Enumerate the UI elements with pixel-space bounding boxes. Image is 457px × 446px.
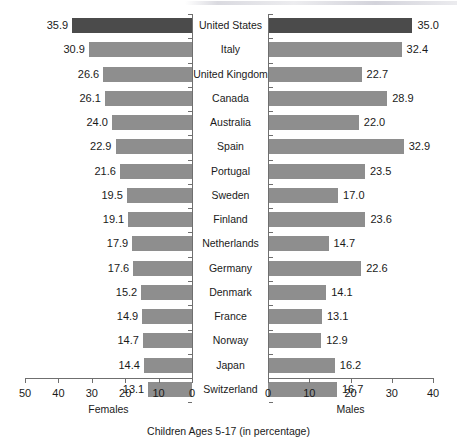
bar-males xyxy=(268,358,335,373)
chart-row: 24.0Australia22.0 xyxy=(0,111,457,135)
males-tick-label: 0 xyxy=(253,386,283,400)
females-tick-label: 20 xyxy=(110,386,140,400)
bar-females xyxy=(103,67,192,82)
value-label-females: 22.9 xyxy=(90,137,111,156)
category-tick xyxy=(269,63,273,64)
category-tick xyxy=(188,14,192,15)
category-tick xyxy=(188,232,192,233)
value-label-males: 23.5 xyxy=(370,162,391,181)
bar-females xyxy=(72,18,192,33)
chart-row: 35.9United States35.0 xyxy=(0,14,457,38)
chart-row: 21.6Portugal23.5 xyxy=(0,160,457,184)
category-tick xyxy=(188,305,192,306)
females-axis-tick xyxy=(92,378,93,383)
category-label: United States xyxy=(193,16,268,35)
females-axis-line xyxy=(25,378,193,379)
chart-row: 19.5Sweden17.0 xyxy=(0,184,457,208)
value-label-males: 32.9 xyxy=(409,137,430,156)
category-tick xyxy=(188,111,192,112)
value-label-males: 35.0 xyxy=(417,16,438,35)
bar-females xyxy=(132,236,192,251)
chart-row: 30.9Italy32.4 xyxy=(0,38,457,62)
males-tick-label: 20 xyxy=(336,386,366,400)
category-tick xyxy=(269,135,273,136)
category-tick xyxy=(269,208,273,209)
value-label-males: 28.9 xyxy=(392,89,413,108)
bar-females xyxy=(127,188,192,203)
category-label: Norway xyxy=(193,331,268,350)
males-axis-tick xyxy=(268,378,269,383)
category-tick xyxy=(188,135,192,136)
chart-row: 17.6Germany22.6 xyxy=(0,257,457,281)
bar-males xyxy=(268,139,404,154)
category-tick xyxy=(269,305,273,306)
bar-males xyxy=(268,261,361,276)
males-tick-label: 30 xyxy=(377,386,407,400)
category-tick xyxy=(188,87,192,88)
category-tick xyxy=(269,354,273,355)
chart-caption: Children Ages 5-17 (in percentage) xyxy=(0,424,457,438)
chart-row: 14.4Japan16.2 xyxy=(0,354,457,378)
females-axis-tick xyxy=(192,378,193,383)
value-label-males: 22.6 xyxy=(366,259,387,278)
value-label-males: 17.0 xyxy=(343,186,364,205)
category-tick xyxy=(188,184,192,185)
chart-row: 15.2Denmark14.1 xyxy=(0,281,457,305)
value-label-males: 14.1 xyxy=(331,283,352,302)
category-tick xyxy=(188,354,192,355)
bar-males xyxy=(268,236,329,251)
bar-females xyxy=(141,285,192,300)
bar-males xyxy=(268,309,322,324)
category-label: Netherlands xyxy=(193,234,268,253)
males-tick-label: 10 xyxy=(294,386,324,400)
bar-females xyxy=(128,212,192,227)
category-tick xyxy=(269,14,273,15)
value-label-females: 26.6 xyxy=(78,65,99,84)
bar-females xyxy=(105,91,192,106)
value-label-females: 26.1 xyxy=(79,89,100,108)
bar-females xyxy=(144,358,192,373)
category-tick xyxy=(269,402,273,403)
category-tick xyxy=(188,160,192,161)
category-label: Portugal xyxy=(193,162,268,181)
scan-artifact xyxy=(185,1,457,5)
category-label: Spain xyxy=(193,137,268,156)
value-label-females: 14.9 xyxy=(117,307,138,326)
value-label-females: 24.0 xyxy=(86,113,107,132)
category-tick xyxy=(188,208,192,209)
chart-row: 26.6United Kingdom22.7 xyxy=(0,63,457,87)
chart-rows: 35.9United States35.030.9Italy32.426.6Un… xyxy=(0,14,457,402)
category-label: Canada xyxy=(193,89,268,108)
bar-males xyxy=(268,18,412,33)
category-label: Japan xyxy=(193,356,268,375)
chart-row: 22.9Spain32.9 xyxy=(0,135,457,159)
bar-females xyxy=(116,139,193,154)
bar-females xyxy=(142,309,192,324)
bar-males xyxy=(268,285,326,300)
chart-row: 14.7Norway12.9 xyxy=(0,329,457,353)
value-label-males: 14.7 xyxy=(334,234,355,253)
population-pyramid-chart: 35.9United States35.030.9Italy32.426.6Un… xyxy=(0,0,457,446)
category-tick xyxy=(188,402,192,403)
chart-row: 26.1Canada28.9 xyxy=(0,87,457,111)
category-tick xyxy=(269,257,273,258)
males-tick-label: 40 xyxy=(418,386,448,400)
category-tick xyxy=(188,38,192,39)
value-label-males: 12.9 xyxy=(326,331,347,350)
males-axis-title: Males xyxy=(291,402,411,416)
value-label-males: 22.0 xyxy=(364,113,385,132)
value-label-females: 30.9 xyxy=(63,40,84,59)
value-label-males: 16.2 xyxy=(340,356,361,375)
females-tick-label: 50 xyxy=(10,386,40,400)
females-tick-label: 10 xyxy=(144,386,174,400)
males-axis-tick xyxy=(433,378,434,383)
value-label-females: 14.4 xyxy=(118,356,139,375)
females-tick-label: 30 xyxy=(77,386,107,400)
value-label-females: 19.5 xyxy=(101,186,122,205)
category-tick xyxy=(269,281,273,282)
category-label: United Kingdom xyxy=(193,65,268,84)
category-tick xyxy=(269,232,273,233)
value-label-males: 32.4 xyxy=(407,40,428,59)
category-label: Finland xyxy=(193,210,268,229)
bar-males xyxy=(268,91,387,106)
